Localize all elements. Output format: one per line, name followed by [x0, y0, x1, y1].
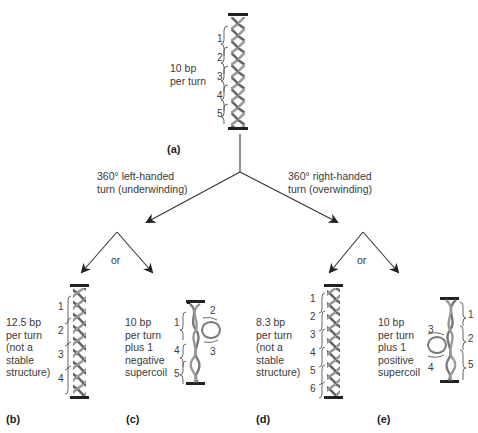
turn-number: 3: [210, 346, 216, 357]
turn-number: 5: [468, 359, 474, 370]
turn-number: 6: [310, 383, 316, 394]
turn-number: 3: [310, 329, 316, 340]
panel-b-description: 12.5 bp per turn (not a stable structure…: [6, 316, 50, 379]
turn-number: 4: [428, 362, 434, 373]
panel-b-label: (b): [6, 413, 20, 425]
underwinding-label: 360° left-handed turn (underwinding): [97, 170, 187, 195]
turn-number: 1: [217, 33, 223, 44]
turn-number: 1: [468, 309, 474, 320]
turn-number: 5: [217, 108, 223, 119]
panel-c-description: 10 bp per turn plus 1 negative supercoil: [125, 316, 167, 379]
turn-number: 4: [217, 90, 223, 101]
panel-e-description: 10 bp per turn plus 1 positive supercoil: [378, 316, 420, 379]
turn-number: 1: [310, 293, 316, 304]
turn-number: 4: [310, 347, 316, 358]
turn-number: 2: [58, 325, 64, 336]
turn-number: 2: [310, 311, 316, 322]
helix-d: [319, 284, 343, 399]
turn-number: 5: [310, 365, 316, 376]
overwinding-label: 360° right-handed turn (overwinding): [288, 170, 372, 195]
turn-number: 3: [428, 324, 434, 335]
turn-number: 1: [58, 301, 64, 312]
or-label-right: or: [357, 254, 366, 267]
turn-number: 3: [217, 71, 223, 82]
turn-number: 4: [58, 373, 64, 384]
branch-lines: [82, 134, 398, 272]
panel-a-description: 10 bp per turn: [170, 62, 206, 87]
panel-d-description: 8.3 bp per turn (not a stable structure): [256, 316, 300, 379]
panel-d-label: (d): [256, 413, 270, 425]
turn-number: 2: [217, 52, 223, 63]
turn-number: 4: [174, 345, 180, 356]
turn-number: 2: [468, 333, 474, 344]
panel-c-label: (c): [126, 413, 139, 425]
helix-a: [221, 13, 248, 130]
turn-number: 3: [58, 349, 64, 360]
panel-a-label: (a): [167, 143, 180, 155]
turn-number: 1: [174, 317, 180, 328]
or-label-left: or: [111, 254, 120, 267]
panel-e-label: (e): [377, 413, 390, 425]
turn-number: 5: [174, 368, 180, 379]
turn-number: 2: [210, 305, 216, 316]
helix-b: [65, 284, 89, 399]
